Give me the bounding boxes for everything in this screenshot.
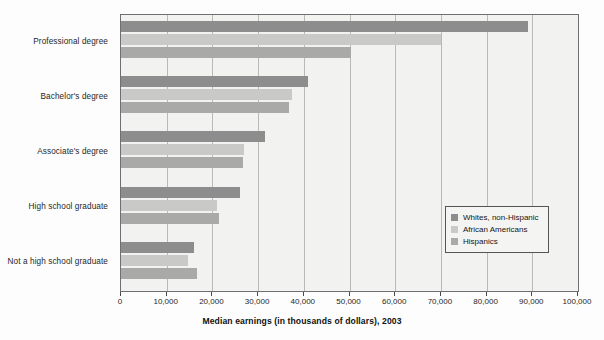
x-tick-mark	[394, 292, 395, 296]
category-label: Not a high school graduate	[8, 257, 108, 266]
x-tick-label: 30,000	[245, 297, 269, 306]
x-axis-ticks: 010,00020,00030,00040,00050,00060,00070,…	[120, 292, 577, 308]
x-tick-label: 90,000	[519, 297, 543, 306]
x-tick-label: 0	[118, 297, 122, 306]
bar	[121, 34, 441, 45]
x-tick-label: 80,000	[473, 297, 497, 306]
bar	[121, 200, 217, 211]
legend-label: Whites, non-Hispanic	[463, 214, 539, 222]
x-tick-label: 20,000	[199, 297, 223, 306]
bar-group	[121, 125, 578, 180]
category-axis-labels: Professional degreeBachelor's degreeAsso…	[0, 14, 114, 290]
bar	[121, 144, 244, 155]
legend-swatch-icon	[451, 214, 458, 221]
legend-swatch-icon	[451, 226, 458, 233]
x-tick-label: 10,000	[153, 297, 177, 306]
bar	[121, 76, 308, 87]
legend-item: African Americans	[451, 224, 539, 235]
x-tick-mark	[531, 292, 532, 296]
legend-label: Hispanics	[463, 238, 498, 246]
x-tick-label: 60,000	[382, 297, 406, 306]
legend-swatch-icon	[451, 238, 458, 245]
bar	[121, 268, 197, 279]
bar	[121, 21, 528, 32]
bar	[121, 47, 351, 58]
bar	[121, 102, 289, 113]
x-tick-mark	[486, 292, 487, 296]
category-label: Bachelor's degree	[41, 92, 108, 101]
x-tick-mark	[349, 292, 350, 296]
bar-group	[121, 70, 578, 125]
bar	[121, 89, 292, 100]
bar	[121, 187, 240, 198]
bar	[121, 255, 188, 266]
x-tick-label: 50,000	[336, 297, 360, 306]
x-tick-mark	[120, 292, 121, 296]
bar	[121, 213, 219, 224]
plot-area: Whites, non-HispanicAfrican AmericansHis…	[120, 14, 579, 292]
category-label: High school graduate	[29, 202, 108, 211]
bar-chart: Professional degreeBachelor's degreeAsso…	[0, 0, 604, 340]
bar-group	[121, 15, 578, 70]
category-label: Professional degree	[33, 37, 108, 46]
x-tick-label: 70,000	[428, 297, 452, 306]
bar	[121, 131, 265, 142]
bar	[121, 157, 243, 168]
x-tick-mark	[303, 292, 304, 296]
x-tick-mark	[211, 292, 212, 296]
category-label: Associate's degree	[37, 147, 108, 156]
bar	[121, 242, 194, 253]
x-tick-label: 100,000	[563, 297, 592, 306]
x-tick-label: 40,000	[291, 297, 315, 306]
x-tick-mark	[257, 292, 258, 296]
x-tick-mark	[577, 292, 578, 296]
legend-item: Hispanics	[451, 236, 539, 247]
x-axis-title: Median earnings (in thousands of dollars…	[0, 316, 604, 326]
legend: Whites, non-HispanicAfrican AmericansHis…	[445, 206, 549, 253]
x-tick-mark	[440, 292, 441, 296]
legend-label: African Americans	[463, 226, 527, 234]
legend-item: Whites, non-Hispanic	[451, 212, 539, 223]
x-tick-mark	[166, 292, 167, 296]
